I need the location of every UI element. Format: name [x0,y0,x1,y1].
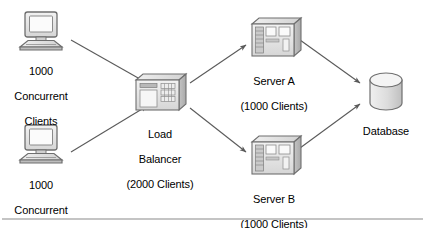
server-box-icon-server-a [252,18,301,56]
server-a-label-line-2: (1000 Clients) [226,100,322,113]
database-label: Database [350,112,422,150]
network-diagram: 1000 Concurrent Clients 1000 Concurrent … [0,0,425,228]
server-box-icon-server-b [252,136,301,174]
arrow-client-top-to-load-balancer [71,40,147,83]
load-balancer-label-line-2: Balancer [112,153,208,166]
server-b-label-line-1: Server B [226,193,322,206]
client-top-label: 1000 Concurrent Clients [2,52,80,140]
server-b-label: Server B (1000 Clients) [226,180,322,228]
desktop-computer-icon-client-top [20,12,62,50]
client-top-label-line-2: Concurrent [2,90,80,103]
client-top-label-line-1: 1000 [2,65,80,78]
server-b-label-line-2: (1000 Clients) [226,218,322,228]
load-balancer-label: Load Balancer (2000 Clients) [112,115,208,203]
client-bottom-label: 1000 Concurrent Clients [2,166,80,228]
load-balancer-label-line-1: Load [112,128,208,141]
load-balancer-label-line-3: (2000 Clients) [112,178,208,191]
database-cylinder-icon [370,73,402,110]
client-bottom-label-line-1: 1000 [2,179,80,192]
database-label-line-1: Database [350,125,422,138]
client-top-label-line-3: Clients [2,115,80,128]
server-a-label-line-1: Server A [226,75,322,88]
server-box-icon-load-balancer [136,74,186,110]
client-bottom-label-line-2: Concurrent [2,204,80,217]
server-a-label: Server A (1000 Clients) [226,62,322,125]
